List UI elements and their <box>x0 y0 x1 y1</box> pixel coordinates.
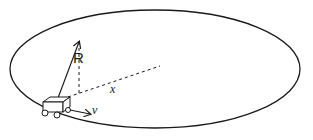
velocity-arrow <box>70 110 90 114</box>
label-displacement: x <box>110 83 115 95</box>
diagram-canvas: R x v <box>0 0 313 140</box>
label-position-vector: R <box>73 50 84 65</box>
cart-icon <box>42 97 71 118</box>
diagram-svg <box>0 0 313 140</box>
label-velocity: v <box>92 104 97 116</box>
